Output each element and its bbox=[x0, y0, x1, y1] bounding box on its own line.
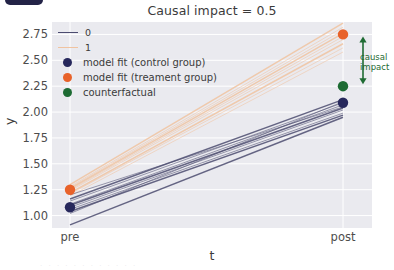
legend-label: 0 bbox=[85, 27, 91, 38]
y-axis-ticks: 1.001.251.501.752.002.252.502.75 bbox=[0, 22, 48, 228]
legend-label: 1 bbox=[85, 42, 91, 53]
annotation-line-2: impact bbox=[360, 62, 394, 72]
clipped-footer-text: · · · · · · · · · · · · bbox=[40, 262, 394, 270]
x-axis-label: t bbox=[52, 248, 372, 263]
y-tick-label: 1.25 bbox=[2, 183, 48, 197]
y-tick-label: 1.50 bbox=[2, 157, 48, 171]
legend-dot-swatch bbox=[63, 73, 72, 82]
y-tick-label: 2.00 bbox=[2, 105, 48, 119]
legend-item[interactable]: model fit (treament group) bbox=[58, 70, 217, 84]
y-tick-label: 2.50 bbox=[2, 53, 48, 67]
y-tick-label: 2.25 bbox=[2, 79, 48, 93]
y-tick-label: 2.75 bbox=[2, 27, 48, 41]
legend-line-swatch bbox=[58, 47, 78, 48]
data-point bbox=[338, 29, 348, 39]
legend: 01model fit (control group)model fit (tr… bbox=[58, 25, 217, 99]
posterior-line bbox=[70, 110, 343, 207]
arrow-head-down bbox=[359, 78, 366, 84]
x-tick-label: post bbox=[331, 230, 356, 244]
posterior-line bbox=[70, 108, 343, 205]
data-point bbox=[65, 184, 75, 194]
posterior-line bbox=[70, 100, 343, 199]
y-tick-label: 1.00 bbox=[2, 209, 48, 223]
causal-impact-annotation: causal impact bbox=[360, 52, 394, 72]
legend-item[interactable]: counterfactual bbox=[58, 85, 217, 99]
arrow-head-up bbox=[359, 36, 366, 42]
legend-label: counterfactual bbox=[83, 87, 156, 98]
chart-title: Causal impact = 0.5 bbox=[52, 3, 372, 18]
legend-item[interactable]: 1 bbox=[58, 40, 217, 54]
legend-item[interactable]: 0 bbox=[58, 25, 217, 39]
data-point bbox=[338, 81, 348, 91]
clipped-badge bbox=[5, 0, 43, 5]
clipped-footer: · · · · · · · · · · · · bbox=[0, 262, 394, 270]
legend-label: model fit (control group) bbox=[83, 57, 205, 68]
legend-dot-swatch bbox=[63, 58, 72, 67]
legend-label: model fit (treament group) bbox=[83, 72, 217, 83]
data-point bbox=[65, 202, 75, 212]
legend-dot-swatch bbox=[63, 88, 72, 97]
legend-item[interactable]: model fit (control group) bbox=[58, 55, 217, 69]
y-tick-label: 1.75 bbox=[2, 131, 48, 145]
x-tick-label: pre bbox=[61, 230, 80, 244]
posterior-line bbox=[70, 107, 343, 195]
causal-impact-figure: Causal impact = 0.5 y 1.001.251.501.752.… bbox=[0, 0, 394, 270]
legend-line-swatch bbox=[58, 32, 78, 33]
data-point bbox=[338, 98, 348, 108]
posterior-line bbox=[70, 113, 343, 209]
annotation-line-1: causal bbox=[360, 52, 394, 62]
